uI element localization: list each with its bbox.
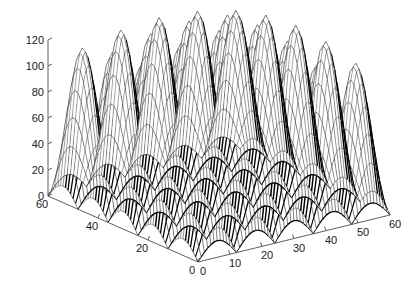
mesh-line-x xyxy=(100,186,103,187)
x-axis-tick xyxy=(293,235,295,239)
x-tick-label: 40 xyxy=(325,234,337,246)
x-axis-tick xyxy=(325,227,327,231)
mesh-line-x xyxy=(160,212,163,213)
mesh-line-x xyxy=(130,199,133,200)
mesh-line-x xyxy=(220,240,223,241)
z-axis-tick xyxy=(48,38,52,40)
z-axis-tick xyxy=(48,168,52,170)
y-tick-label: 40 xyxy=(86,220,98,232)
figure-canvas: 02040608010012002040600102030405060 xyxy=(0,0,420,291)
x-axis-tick xyxy=(261,242,263,246)
z-tick-label: 80 xyxy=(32,86,44,98)
mesh-line-x xyxy=(190,226,193,227)
x-tick-label: 50 xyxy=(357,226,369,238)
x-tick-label: 20 xyxy=(261,249,273,261)
z-tick-label: 20 xyxy=(32,164,44,176)
x-tick-label: 30 xyxy=(293,242,305,254)
mesh-line-x xyxy=(259,230,262,231)
y-tick-label: 20 xyxy=(136,242,148,254)
x-axis-tick xyxy=(357,219,359,223)
mesh-surface xyxy=(48,11,390,262)
surface-plot: 02040608010012002040600102030405060 xyxy=(0,0,420,291)
z-tick-label: 60 xyxy=(32,112,44,124)
z-tick-label: 120 xyxy=(26,34,44,46)
x-tick-label: 0 xyxy=(200,265,206,277)
z-axis-tick xyxy=(48,64,52,66)
y-tick-label: 60 xyxy=(36,198,48,210)
y-axis-tick xyxy=(98,214,100,218)
y-axis-tick xyxy=(148,236,150,240)
x-tick-label: 60 xyxy=(389,218,401,230)
x-axis-tick xyxy=(229,250,231,254)
y-tick-label: 0 xyxy=(189,264,195,276)
z-tick-label: 40 xyxy=(32,138,44,150)
x-tick-label: 10 xyxy=(229,257,241,269)
z-axis-tick xyxy=(48,90,52,92)
z-axis-tick xyxy=(48,116,52,118)
z-tick-label: 100 xyxy=(26,60,44,72)
z-axis-tick xyxy=(48,142,52,144)
